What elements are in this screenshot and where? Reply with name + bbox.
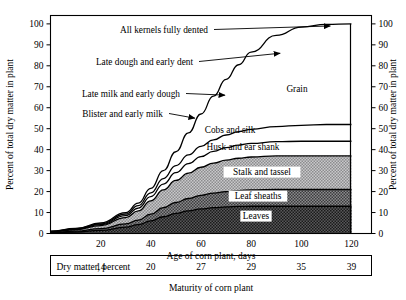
plot-area bbox=[51, 24, 352, 234]
x-tick-label: 60 bbox=[196, 239, 206, 249]
dry-matter-value: 14 bbox=[96, 262, 106, 272]
x-tick-label: 80 bbox=[246, 239, 256, 249]
band-label-husk-and-ear-shank: Husk and ear shank bbox=[206, 142, 279, 152]
band-label-text: Leaves bbox=[243, 211, 270, 221]
y-axis-title-left: Percent of total dry matter in plant bbox=[5, 59, 15, 190]
y-tick-label-left: 50 bbox=[34, 124, 44, 134]
dry-matter-value: 35 bbox=[297, 262, 307, 272]
stage-annotation-label: Blister and early milk bbox=[82, 109, 163, 119]
band-label-text: Cobs and silk bbox=[205, 125, 256, 135]
band-label-text: Leaf sheaths bbox=[235, 191, 282, 201]
band-label-text: Grain bbox=[286, 84, 308, 94]
y-tick-label-left: 60 bbox=[34, 103, 44, 113]
x-tick-label: 20 bbox=[96, 239, 106, 249]
x-tick-label: 100 bbox=[294, 239, 309, 249]
chart-canvas: 0010102020303040405050606070708080909010… bbox=[0, 0, 406, 300]
y-tick-label-right: 50 bbox=[379, 124, 389, 134]
y-tick-label-left: 0 bbox=[39, 229, 44, 239]
corn-dry-matter-chart: 0010102020303040405050606070708080909010… bbox=[0, 0, 406, 300]
dry-matter-value: 29 bbox=[246, 262, 256, 272]
dry-matter-value: 27 bbox=[196, 262, 206, 272]
stage-annotation: Late milk and early dough bbox=[82, 89, 225, 99]
y-tick-label-right: 100 bbox=[379, 19, 394, 29]
y-tick-label-right: 70 bbox=[379, 82, 389, 92]
chart-caption: Maturity of corn plant bbox=[169, 283, 254, 293]
y-tick-label-left: 40 bbox=[34, 145, 44, 155]
band-label-grain: Grain bbox=[286, 84, 308, 94]
y-tick-label-right: 30 bbox=[379, 166, 389, 176]
y-tick-label-right: 0 bbox=[379, 229, 384, 239]
y-tick-label-right: 90 bbox=[379, 40, 389, 50]
band-label-stalk-and-tassel: Stalk and tassel bbox=[224, 167, 301, 178]
y-tick-label-right: 10 bbox=[379, 208, 389, 218]
y-tick-label-left: 20 bbox=[34, 187, 44, 197]
stage-annotation: Blister and early milk bbox=[82, 109, 195, 119]
stage-annotation-label: Late milk and early dough bbox=[82, 89, 180, 99]
band-label-leaves: Leaves bbox=[240, 211, 271, 222]
y-tick-label-right: 20 bbox=[379, 187, 389, 197]
y-tick-label-left: 100 bbox=[29, 19, 44, 29]
band-label-text: Husk and ear shank bbox=[206, 142, 279, 152]
y-tick-label-left: 70 bbox=[34, 82, 44, 92]
y-tick-label-left: 80 bbox=[34, 61, 44, 71]
dry-matter-value: 20 bbox=[146, 262, 156, 272]
dry-matter-value: 39 bbox=[347, 262, 357, 272]
y-tick-label-left: 90 bbox=[34, 40, 44, 50]
band-label-cobs-and-silk: Cobs and silk bbox=[205, 125, 256, 135]
y-tick-label-right: 60 bbox=[379, 103, 389, 113]
dry-matter-row-label: Dry matter, percent bbox=[57, 262, 131, 272]
y-axis-title-right: Percent of total dry matter in plant bbox=[388, 59, 398, 190]
y-tick-label-right: 80 bbox=[379, 61, 389, 71]
annotation-leader-line bbox=[169, 114, 195, 119]
y-tick-label-right: 40 bbox=[379, 145, 389, 155]
stage-annotation-label: All kernels fully dented bbox=[120, 25, 208, 35]
x-tick-label: 120 bbox=[344, 239, 359, 249]
x-tick-label: 40 bbox=[146, 239, 156, 249]
band-label-leaf-sheaths: Leaf sheaths bbox=[229, 191, 288, 202]
band-label-text: Stalk and tassel bbox=[233, 167, 291, 177]
stage-annotation-label: Late dough and early dent bbox=[96, 57, 193, 67]
y-tick-label-left: 10 bbox=[34, 208, 44, 218]
y-tick-label-left: 30 bbox=[34, 166, 44, 176]
